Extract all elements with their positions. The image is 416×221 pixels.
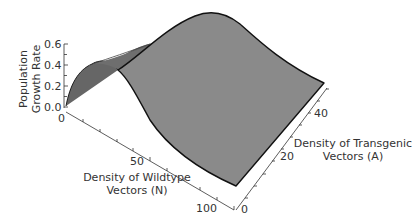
- svg-text:Density of Wildtype: Density of Wildtype: [83, 171, 191, 184]
- svg-text:Density of Transgenic: Density of Transgenic: [294, 137, 412, 150]
- surface-plot: 0.6 0.4 0.2 0.0 Population Growth Rate 0…: [0, 0, 416, 221]
- z-tick-0: 0.6: [44, 38, 62, 51]
- z-tick-2: 0.2: [44, 80, 62, 93]
- x-tick-2: 100: [196, 202, 217, 215]
- y-tick-1: 20: [280, 150, 294, 163]
- x-tick-0: 0: [58, 112, 65, 125]
- surface-left-edge: [66, 61, 118, 106]
- z-axis-label: Population Growth Rate: [17, 45, 43, 114]
- x-axis-label: Density of Wildtype Vectors (N): [83, 171, 191, 197]
- svg-text:Growth Rate: Growth Rate: [30, 45, 43, 114]
- svg-text:Population: Population: [17, 50, 30, 108]
- svg-text:Vectors (A): Vectors (A): [323, 150, 383, 163]
- y-axis-label: Density of Transgenic Vectors (A): [294, 137, 412, 163]
- y-tick-0: 0: [241, 203, 248, 216]
- x-tick-1: 50: [130, 155, 144, 168]
- svg-text:Vectors (N): Vectors (N): [106, 184, 167, 197]
- z-tick-1: 0.4: [44, 59, 62, 72]
- y-tick-2: 40: [314, 107, 328, 120]
